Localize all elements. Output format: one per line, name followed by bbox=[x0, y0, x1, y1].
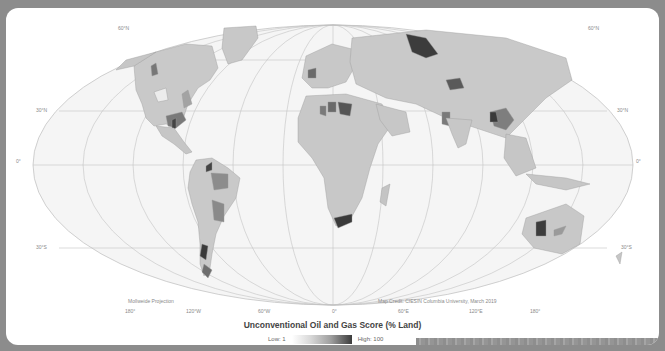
lat-label-0-right: 0° bbox=[636, 158, 641, 164]
lat-label-60n-left: 60°N bbox=[118, 25, 129, 31]
world-map bbox=[6, 8, 659, 345]
lon-label-120w: 120°W bbox=[186, 308, 201, 314]
lat-label-30s-right: 30°S bbox=[621, 244, 632, 250]
scan-artifact bbox=[416, 338, 659, 345]
projection-label: Mollweide Projection bbox=[128, 298, 174, 304]
poland-region bbox=[308, 68, 316, 78]
map-credit: Map Credit: CIESIN Columbia University, … bbox=[378, 298, 497, 304]
lat-label-30n-right: 30°N bbox=[617, 107, 628, 113]
lon-label-0: 0° bbox=[332, 308, 337, 314]
map-card: 60°N 30°N 0° 30°S 60°N 30°N 0° 30°S 180°… bbox=[6, 8, 659, 345]
legend-title: Unconventional Oil and Gas Score (% Land… bbox=[6, 320, 659, 330]
new-zealand bbox=[616, 252, 622, 264]
lon-label-180w: 180° bbox=[125, 308, 135, 314]
parana-region bbox=[212, 200, 224, 222]
legend-high-label: High: 100 bbox=[358, 336, 384, 342]
legend: Low: 1 High: 100 bbox=[268, 334, 383, 344]
algeria-region-1 bbox=[328, 102, 336, 112]
lat-label-60n-right: 60°N bbox=[588, 25, 599, 31]
lon-label-180e: 180° bbox=[530, 308, 540, 314]
legend-gradient-bar bbox=[292, 335, 352, 344]
lat-label-30s-left: 30°S bbox=[36, 244, 47, 250]
lon-label-60e: 60°E bbox=[398, 308, 409, 314]
libya-region bbox=[338, 102, 352, 116]
lat-label-0-left: 0° bbox=[16, 158, 21, 164]
amazon-region bbox=[211, 173, 228, 190]
lon-label-120e: 120°E bbox=[469, 308, 483, 314]
lat-label-30n-left: 30°N bbox=[36, 107, 47, 113]
legend-low-label: Low: 1 bbox=[268, 336, 286, 342]
western-australia-region bbox=[536, 220, 546, 236]
algeria-region-2 bbox=[320, 106, 326, 116]
lon-label-60w: 60°W bbox=[258, 308, 270, 314]
